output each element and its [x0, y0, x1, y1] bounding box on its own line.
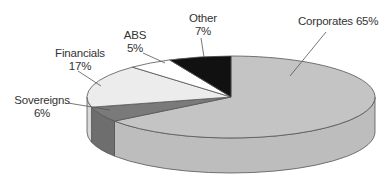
label-abs-name: ABS [120, 29, 150, 42]
label-financials-name: Financials [55, 47, 105, 60]
label-sovereigns-name: Sovereigns [14, 94, 70, 107]
label-sovereigns-pct: 6% [14, 107, 70, 120]
label-corporates-text: Corporates 65% [298, 15, 378, 28]
label-other-name: Other [183, 12, 223, 25]
label-corporates: Corporates 65% [298, 15, 378, 28]
label-financials: Financials 17% [55, 47, 105, 73]
label-other-pct: 7% [183, 25, 223, 38]
leader-line-financials [78, 71, 101, 86]
label-sovereigns: Sovereigns 6% [14, 94, 70, 120]
label-financials-pct: 17% [55, 60, 105, 73]
label-other: Other 7% [183, 12, 223, 38]
leader-line-other [201, 38, 204, 57]
label-abs: ABS 5% [120, 29, 150, 55]
pie-top-layer [87, 56, 375, 138]
label-abs-pct: 5% [120, 42, 150, 55]
